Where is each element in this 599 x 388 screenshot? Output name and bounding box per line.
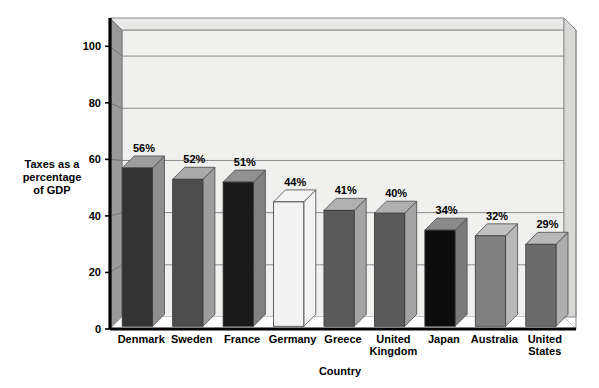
y-axis-title-line-2: of GDP xyxy=(33,184,70,196)
value-label-japan: 34% xyxy=(436,204,458,216)
bar-united-states xyxy=(526,232,568,326)
category-label-united-kingdom: Kingdom xyxy=(370,345,418,357)
bar-front-face xyxy=(374,213,404,326)
value-label-sweden: 52% xyxy=(183,153,205,165)
bar-front-face xyxy=(526,244,556,326)
bar-side-face xyxy=(304,190,316,326)
category-label-united-states: States xyxy=(528,345,561,357)
bar-side-face xyxy=(556,232,568,326)
category-label-denmark: Denmark xyxy=(118,333,166,345)
bar-japan xyxy=(425,218,467,326)
bar-side-face xyxy=(354,198,366,326)
bar-front-face xyxy=(223,182,253,326)
category-label-japan: Japan xyxy=(428,333,460,345)
plot-left-wall xyxy=(110,18,122,329)
y-tick-label-0: 0 xyxy=(95,323,101,335)
y-axis-title-line-0: Taxes as a xyxy=(25,158,81,170)
y-tick-label-20: 20 xyxy=(89,266,101,278)
bar-australia xyxy=(475,224,517,326)
x-axis-title-text: Country xyxy=(319,365,362,377)
y-tick-label-60: 60 xyxy=(89,153,101,165)
value-label-united-states: 29% xyxy=(536,218,558,230)
bar-france xyxy=(223,170,265,326)
bar-side-face xyxy=(506,224,518,326)
value-label-denmark: 56% xyxy=(133,142,155,154)
bar-denmark xyxy=(122,156,164,326)
bar-united-kingdom xyxy=(374,201,416,326)
bar-front-face xyxy=(425,230,455,326)
bar-sweden xyxy=(173,167,215,326)
bar-side-face xyxy=(152,156,164,326)
bar-front-face xyxy=(122,168,152,326)
value-label-australia: 32% xyxy=(486,210,508,222)
bar-side-face xyxy=(203,167,215,326)
bar-side-face xyxy=(253,170,265,326)
category-label-united-kingdom: United xyxy=(376,333,410,345)
category-label-united-states: United xyxy=(528,333,562,345)
y-tick-label-80: 80 xyxy=(89,97,101,109)
value-label-united-kingdom: 40% xyxy=(385,187,407,199)
bar-front-face xyxy=(324,210,354,326)
value-label-germany: 44% xyxy=(284,176,306,188)
bar-greece xyxy=(324,198,366,326)
category-label-germany: Germany xyxy=(269,333,318,345)
bar-front-face xyxy=(475,236,505,326)
plot-top-face xyxy=(110,18,564,30)
y-axis-title-line-1: percentage xyxy=(23,171,82,183)
bar-side-face xyxy=(405,201,417,326)
bar-front-face xyxy=(274,202,304,326)
category-label-france: France xyxy=(224,333,260,345)
category-label-australia: Australia xyxy=(471,333,519,345)
y-tick-label-100: 100 xyxy=(83,40,101,52)
bar-side-face xyxy=(455,218,467,326)
value-label-france: 51% xyxy=(234,156,256,168)
y-tick-label-40: 40 xyxy=(89,210,101,222)
bar-front-face xyxy=(173,179,203,326)
category-label-sweden: Sweden xyxy=(171,333,213,345)
category-label-greece: Greece xyxy=(324,333,361,345)
bar-germany xyxy=(274,190,316,326)
value-label-greece: 41% xyxy=(335,184,357,196)
chart-container: 020406080100 29%32%34%40%41%44%51%52%56%… xyxy=(0,0,599,388)
bar-chart-3d: 020406080100 29%32%34%40%41%44%51%52%56%… xyxy=(0,0,599,388)
